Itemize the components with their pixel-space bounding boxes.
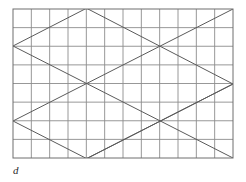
pattern-segment-diag-down-d (13, 0, 88, 9)
figure-container: d (0, 0, 246, 182)
pattern-segment-diag-up-e (13, 158, 88, 182)
figure-caption-label: d (13, 163, 19, 177)
rhombic-lattice-figure (0, 0, 246, 182)
